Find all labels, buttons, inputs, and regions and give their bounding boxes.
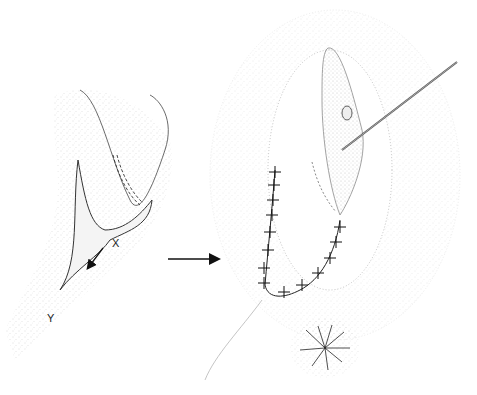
left-panel-incision: X Y [5, 89, 172, 360]
label-point-y: Y [47, 312, 55, 324]
right-panel-closure [205, 10, 460, 380]
urethral-opening [342, 106, 352, 120]
label-point-x: X [112, 237, 120, 249]
illustration: X Y [0, 0, 477, 395]
right-perineal-line [205, 300, 262, 380]
